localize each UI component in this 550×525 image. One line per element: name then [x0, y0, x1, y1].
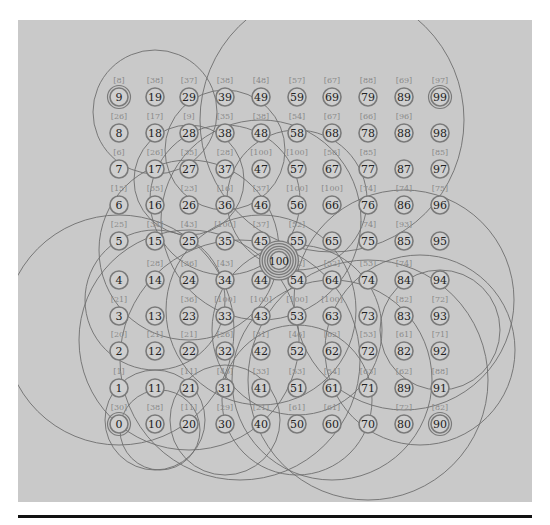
- node-id: 31: [218, 382, 232, 395]
- node-id: 56: [290, 199, 304, 212]
- node-label: [43]: [181, 220, 197, 229]
- node-label: [15]: [111, 184, 127, 193]
- node: 95: [431, 232, 449, 250]
- node-id: 49: [254, 91, 268, 104]
- node: 62[62]: [323, 330, 341, 360]
- node: 5[25]: [110, 220, 128, 250]
- node-id: 94: [433, 274, 447, 287]
- node-id: 33: [218, 310, 232, 323]
- node-id: 32: [218, 345, 232, 358]
- node-label: [21]: [253, 403, 269, 412]
- node-label: [1]: [113, 367, 124, 376]
- node: 86[74]: [395, 184, 413, 214]
- node: 78[66]: [359, 112, 377, 142]
- node-label: [28]: [217, 148, 233, 157]
- node-label: [100]: [214, 295, 236, 304]
- node-label: [36]: [181, 259, 197, 268]
- node-label: [85]: [360, 148, 376, 157]
- node-id: 91: [433, 382, 447, 395]
- node: 21[11]: [180, 367, 198, 397]
- node-label: [96]: [396, 112, 412, 121]
- node: 46[37]: [252, 184, 270, 214]
- node-label: [38]: [147, 403, 163, 412]
- node-id: 64: [325, 274, 339, 287]
- node: 85[93]: [395, 220, 413, 250]
- center-node-id: 100: [269, 255, 289, 267]
- node-label: [57]: [289, 76, 305, 85]
- node-id: 30: [218, 418, 232, 431]
- node-id: 28: [182, 127, 196, 140]
- node-id: 23: [182, 310, 196, 323]
- node-label: [100]: [286, 148, 308, 157]
- node: 41[33]: [252, 367, 270, 397]
- node-id: 11: [148, 382, 162, 395]
- node-label: [61]: [324, 403, 340, 412]
- node-label: [75]: [432, 184, 448, 193]
- node: 93[72]: [431, 295, 449, 325]
- node-label: [26]: [217, 330, 233, 339]
- node: 83[82]: [395, 295, 413, 325]
- node-label: [21]: [111, 295, 127, 304]
- node: 75[74]: [359, 220, 377, 250]
- node-label: [71]: [432, 330, 448, 339]
- node-label: [67]: [324, 76, 340, 85]
- node-id: 53: [290, 310, 304, 323]
- node: 8[26]: [110, 112, 128, 142]
- node-id: 96: [433, 199, 447, 212]
- node-id: 66: [325, 199, 339, 212]
- node: 56[100]: [286, 184, 308, 214]
- node: 4: [110, 271, 128, 289]
- node: 94: [431, 271, 449, 289]
- node-label: [16]: [217, 184, 233, 193]
- node-id: 72: [361, 345, 375, 358]
- node: 39[38]: [216, 76, 234, 106]
- node-id: 92: [433, 345, 447, 358]
- center-node: 100: [260, 241, 299, 280]
- node-label: [97]: [432, 76, 448, 85]
- node-id: 93: [433, 310, 447, 323]
- node-id: 62: [325, 345, 339, 358]
- node-label: [53]: [289, 367, 305, 376]
- node: 77[85]: [359, 148, 377, 178]
- node: 15[34]: [146, 220, 164, 250]
- node-id: 19: [148, 91, 162, 104]
- node: 63[100]: [321, 295, 343, 325]
- node-label: [56]: [324, 148, 340, 157]
- node-label: [82]: [432, 403, 448, 412]
- node: 73: [359, 307, 377, 325]
- node-label: [53]: [360, 259, 376, 268]
- node-id: 43: [254, 310, 268, 323]
- node: 49[48]: [252, 76, 270, 106]
- node-label: [69]: [396, 76, 412, 85]
- node-id: 35: [218, 235, 232, 248]
- node: 67[56]: [323, 148, 341, 178]
- node-label: [35]: [217, 112, 233, 121]
- node: 58[54]: [288, 112, 306, 142]
- node-id: 68: [325, 127, 339, 140]
- node: 1[1]: [110, 367, 128, 397]
- node-id: 65: [325, 235, 339, 248]
- node: 79[88]: [359, 76, 377, 106]
- node-label: [62]: [396, 367, 412, 376]
- node-label: [100]: [321, 184, 343, 193]
- node-label: [38]: [217, 76, 233, 85]
- node: 7[6]: [110, 148, 128, 178]
- node-label: [74]: [360, 220, 376, 229]
- node: 65: [323, 232, 341, 250]
- node-id: 78: [361, 127, 375, 140]
- node: 48[38]: [252, 112, 270, 142]
- node-label: [23]: [181, 184, 197, 193]
- node-label: [52]: [324, 259, 340, 268]
- node-label: [93]: [396, 220, 412, 229]
- node: 87: [395, 160, 413, 178]
- node-label: [72]: [432, 295, 448, 304]
- node-id: 88: [397, 127, 411, 140]
- node-id: 90: [433, 418, 447, 431]
- node: 52[46]: [288, 330, 306, 360]
- node: 33[100]: [214, 295, 236, 325]
- node-label: [11]: [181, 403, 197, 412]
- node-label: [82]: [396, 295, 412, 304]
- node-id: 3: [116, 310, 123, 323]
- node-id: 61: [325, 382, 339, 395]
- node-label: [63]: [360, 367, 376, 376]
